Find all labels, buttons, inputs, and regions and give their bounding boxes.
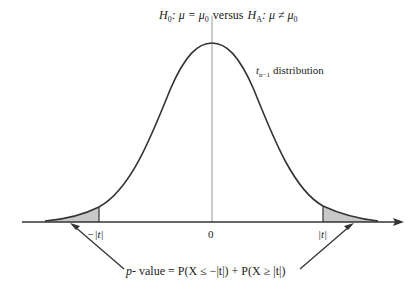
p-value-formula: p- value = P(X ≤ −|t|) + P(X ≥ |t|) xyxy=(125,264,285,278)
pos-t-label: |t| xyxy=(318,228,327,240)
hypothesis-title: H0: μ = μ0versusHA: μ ≠ μ0 xyxy=(158,8,298,24)
t-distribution-diagram: H0: μ = μ0versusHA: μ ≠ μ0 tn−1distribut… xyxy=(0,0,417,291)
right-pointer-arrowhead xyxy=(344,223,354,230)
zero-label: 0 xyxy=(208,228,214,240)
neg-t-label: −|t| xyxy=(87,228,104,240)
distribution-label: tn−1distribution xyxy=(256,64,324,79)
left-pointer-arrowhead xyxy=(70,223,80,230)
